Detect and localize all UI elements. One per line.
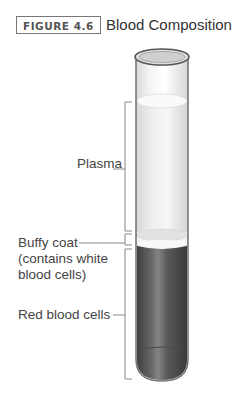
label-buffy-coat-line2: (contains white <box>18 251 108 267</box>
label-buffy-coat: Buffy coat (contains white blood cells) <box>18 235 108 283</box>
label-red-blood-cells: Red blood cells <box>18 307 110 323</box>
label-plasma: Plasma <box>77 156 122 172</box>
plasma-layer <box>137 94 187 232</box>
label-buffy-coat-line1: Buffy coat <box>18 235 108 251</box>
bracket-red-blood-cells <box>113 249 132 379</box>
buffy-coat-layer <box>137 229 187 248</box>
red-blood-cells-layer <box>137 246 187 380</box>
label-buffy-coat-line3: blood cells) <box>18 267 108 283</box>
test-tube-diagram <box>0 0 232 411</box>
